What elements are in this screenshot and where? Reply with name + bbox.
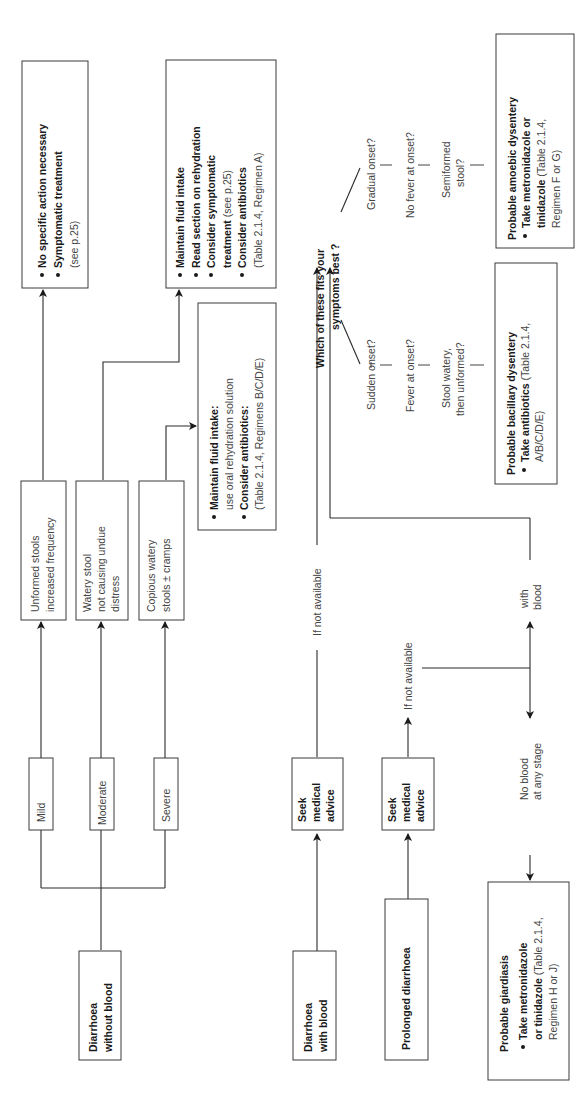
symptom-moderate-line-3: distress (109, 576, 121, 612)
seek-advice-1-line-3: advice (324, 789, 336, 822)
symptom-severe-box: Copious watery stools ± cramps (139, 481, 184, 620)
severity-mild-box: Mild (29, 758, 53, 830)
criterion-fever-at-onset: Fever at onset? (404, 339, 416, 412)
outcome-moderate-line-4: treatment (see p.25) (221, 170, 233, 268)
criterion-stool-watery-1: Stool watery, (440, 348, 452, 408)
start-with-blood-line-1: Diarrhoea (302, 1003, 314, 1052)
arrow (103, 290, 179, 480)
severity-severe-label: Severe (160, 789, 172, 822)
bacillary-criteria: Sudden onset? Fever at onset? Stool wate… (365, 339, 466, 416)
symptom-mild-line-1: Unformed stools (29, 536, 41, 612)
outcome-moderate-line-3: Consider symptomatic (205, 155, 217, 268)
amoebic-outcome-box: Probable amoebic dysentery Take metronid… (496, 34, 574, 248)
symptom-moderate-line-2: not causing undue (95, 526, 107, 612)
symptom-moderate-box: Watery stool not causing undue distress (76, 481, 128, 620)
if-not-available-label-1: If not available (311, 568, 323, 636)
criterion-no-fever: No fever at onset? (404, 132, 416, 218)
outcome-mild-line-1: No specific action necessary (36, 124, 48, 268)
amoebic-line-4: Regimen F or G) (550, 150, 562, 228)
amoebic-line-3: tinidazole (Table 2.1.4, (535, 119, 547, 228)
outcome-mild-line-2: Symptomatic treatment (52, 151, 64, 268)
amoebic-title: Probable amoebic dysentery (506, 97, 518, 240)
severity-mild-label: Mild (35, 803, 47, 822)
seek-advice-1-line-2: medical (310, 783, 322, 822)
start-without-blood-line-1: Diarrhoea (87, 1003, 99, 1052)
severity-severe-box: Severe (154, 758, 178, 830)
outcome-severe-line-3: Consider antibiotics: (238, 406, 250, 510)
giardiasis-line-2: Take metronidazole (517, 943, 529, 1040)
outcome-severe-line-4: (Table 2.1.4, Regimens B/C/D/E) (253, 358, 265, 510)
outcome-moderate-line-6: (Table 2.1.4, Regimen A) (252, 152, 264, 268)
diarrhoea-flowchart: No specific action necessary Symptomatic… (0, 0, 587, 1111)
amoebic-line-2: Take metronidazole or (520, 117, 532, 228)
start-prolonged-label: Prolonged diarrhoea (400, 947, 412, 1050)
symptom-severe-line-2: stools ± cramps (160, 539, 172, 612)
severity-moderate-box: Moderate (90, 758, 114, 830)
criterion-semiformed-1: Semiformed (440, 141, 452, 198)
arrow (166, 426, 196, 480)
giardiasis-line-4: Regimen H or J) (547, 964, 559, 1040)
outcome-mild-box: No specific action necessary Symptomatic… (22, 61, 88, 288)
outcome-severe-box: Maintain fluid intake: use oral rehydrat… (198, 303, 276, 530)
seek-advice-2-line-2: medical (400, 783, 412, 822)
no-blood-label-2: at any stage (531, 743, 543, 800)
giardiasis-title: Probable giardiasis (498, 955, 510, 1052)
if-not-available-label-2: If not available (402, 642, 414, 710)
symptom-moderate-line-1: Watery stool (81, 554, 93, 612)
outcome-moderate-line-5: Consider antibiotics (236, 167, 248, 268)
start-prolonged-box: Prolonged diarrhoea (385, 899, 428, 1060)
start-without-blood-line-2: without blood (102, 983, 114, 1053)
criterion-stool-watery-2: then unformed? (454, 342, 466, 416)
seek-advice-2-line-3: advice (414, 789, 426, 822)
symptom-mild-box: Unformed stools increased frequency (21, 481, 66, 620)
bacillary-outcome-box: Probable bacillary dysentery Take antibi… (495, 263, 557, 484)
seek-advice-box-2: Seek medical advice (382, 758, 434, 830)
start-with-blood-line-2: with blood (317, 1000, 329, 1054)
criterion-semiformed-2: stool? (454, 159, 466, 187)
symptom-mild-line-2: increased frequency (44, 517, 56, 612)
start-without-blood-box: Diarrhoea without blood (79, 951, 121, 1060)
no-blood-label-1: No blood (518, 758, 530, 800)
branch-line (341, 320, 360, 364)
bacillary-line-3: A/B/C/D/E) (533, 411, 545, 462)
with-blood-label-2: blood (531, 584, 543, 610)
bacillary-line-2: Take antibiotics (Table 2.1.4, (519, 323, 531, 462)
start-with-blood-box: Diarrhoea with blood (293, 951, 336, 1060)
outcome-moderate-line-2: Read section on rehydration (190, 126, 202, 268)
outcome-severe-line-2: use oral rehydration solution (223, 378, 235, 510)
outcome-mild-line-3: (see p.25) (68, 221, 80, 268)
criterion-sudden-onset: Sudden onset? (365, 339, 377, 410)
giardiasis-line-3: or tinidazole (Table 2.1.4, (532, 917, 544, 1040)
severity-moderate-label: Moderate (96, 780, 108, 825)
branch-line (341, 168, 360, 212)
seek-advice-box-1: Seek medical advice (292, 758, 343, 830)
question-line-2: symptoms best ? (329, 244, 341, 330)
seek-advice-1-line-1: Seek (296, 797, 308, 822)
giardiasis-outcome-box: Probable giardiasis Take metronidazole o… (488, 882, 569, 1080)
outcome-moderate-line-1: Maintain fluid intake (174, 167, 186, 268)
criterion-gradual-onset: Gradual onset? (365, 138, 377, 210)
amoebic-criteria: Gradual onset? No fever at onset? Semifo… (365, 132, 466, 218)
bacillary-title: Probable bacillary dysentery (505, 332, 517, 475)
with-blood-label-1: with (518, 589, 530, 609)
outcome-moderate-box: Maintain fluid intake Read section on re… (166, 60, 276, 288)
symptom-severe-line-1: Copious watery (145, 539, 157, 612)
outcome-severe-line-1: Maintain fluid intake: (208, 406, 220, 510)
seek-advice-2-line-1: Seek (386, 797, 398, 822)
question-line-1: Which of these fits your (314, 249, 326, 368)
